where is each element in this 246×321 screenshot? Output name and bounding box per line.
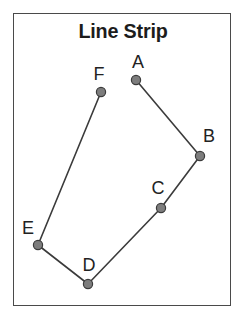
figure-root: Line Strip ABCDEF bbox=[0, 0, 246, 321]
vertex-point-d[interactable] bbox=[83, 279, 92, 288]
line-strip-path bbox=[38, 80, 200, 284]
vertex-label-b: B bbox=[203, 127, 215, 145]
vertex-label-f: F bbox=[94, 65, 105, 83]
vertex-label-e: E bbox=[22, 219, 34, 237]
vertex-label-a: A bbox=[132, 53, 144, 71]
vertex-label-d: D bbox=[83, 256, 96, 274]
vertex-point-c[interactable] bbox=[156, 203, 165, 212]
line-strip-canvas bbox=[0, 0, 246, 321]
vertex-point-e[interactable] bbox=[33, 240, 42, 249]
vertex-group bbox=[33, 75, 204, 288]
vertex-point-b[interactable] bbox=[195, 151, 204, 160]
vertex-label-c: C bbox=[152, 179, 165, 197]
vertex-point-a[interactable] bbox=[131, 75, 140, 84]
vertex-point-f[interactable] bbox=[96, 87, 105, 96]
